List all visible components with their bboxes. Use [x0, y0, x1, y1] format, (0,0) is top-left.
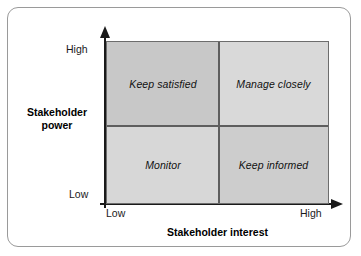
matrix-divider-horizontal: [107, 125, 328, 127]
quadrant-manage-closely[interactable]: Manage closely: [219, 42, 328, 126]
y-axis-title: Stakeholder power: [20, 106, 94, 131]
diagram-canvas: Keep satisfied Manage closely Monitor Ke…: [0, 0, 361, 256]
x-axis-tick-high: High: [300, 207, 322, 219]
diagram-frame: Keep satisfied Manage closely Monitor Ke…: [7, 7, 351, 247]
quadrant-label-keep-satisfied: Keep satisfied: [129, 78, 196, 90]
y-axis-title-line1: Stakeholder: [20, 106, 94, 119]
quadrant-keep-informed[interactable]: Keep informed: [219, 126, 328, 203]
y-axis-title-line2: power: [20, 119, 94, 132]
y-axis-tick-high: High: [66, 43, 88, 55]
matrix-divider-vertical: [218, 42, 220, 203]
x-axis-title: Stakeholder interest: [106, 226, 329, 238]
quadrant-keep-satisfied[interactable]: Keep satisfied: [107, 42, 219, 126]
y-axis-tick-low: Low: [69, 188, 88, 200]
quadrant-label-keep-informed: Keep informed: [239, 159, 309, 171]
quadrant-label-manage-closely: Manage closely: [236, 78, 310, 90]
stakeholder-matrix: Keep satisfied Manage closely Monitor Ke…: [106, 41, 329, 204]
quadrant-label-monitor: Monitor: [145, 159, 181, 171]
x-axis-tick-low: Low: [106, 207, 125, 219]
quadrant-monitor[interactable]: Monitor: [107, 126, 219, 203]
